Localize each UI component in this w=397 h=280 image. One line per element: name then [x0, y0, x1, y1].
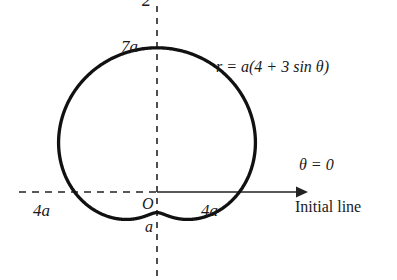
min-radius-label: a — [145, 219, 153, 235]
figure-canvas: 2 7a r = a(4 + 3 sin θ) θ = 0 Initial li… — [0, 0, 397, 280]
origin-label: O — [142, 196, 154, 212]
polar-curve-figure — [0, 0, 397, 280]
max-radius-label: 7a — [121, 38, 138, 55]
equation-label: r = a(4 + 3 sin θ) — [216, 59, 329, 75]
initial-line-label: Initial line — [295, 199, 361, 215]
right-intercept-label: 4a — [201, 202, 218, 219]
pi-over-2-axis-label: 2 — [142, 0, 151, 9]
left-intercept-label: 4a — [33, 202, 50, 219]
arrowhead-icon — [296, 187, 308, 198]
theta-zero-label: θ = 0 — [299, 157, 334, 173]
